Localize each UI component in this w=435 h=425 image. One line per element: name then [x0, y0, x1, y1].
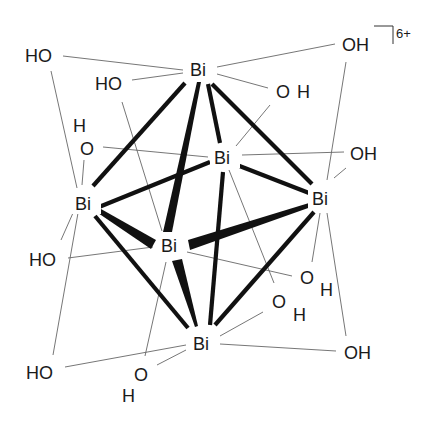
oh-top-inner-right-h: H — [297, 82, 310, 102]
charge-bracket: 6+ — [374, 26, 411, 44]
oh-lower-right-2-o: O — [272, 292, 286, 312]
oh-lower-right-1-h: H — [320, 280, 333, 300]
oh-top-inner-left: HO — [95, 74, 122, 94]
charge-label: 6+ — [396, 26, 411, 41]
oh-bottom-right: OH — [344, 343, 371, 363]
oh-bottom-center-h: H — [122, 386, 135, 406]
bi-front: Bi — [161, 236, 177, 256]
oh-back-left-h: H — [73, 116, 86, 136]
oh-bottom-left: HO — [26, 363, 53, 383]
oh-lower-right-2-h: H — [293, 305, 306, 325]
oh-top-right: OH — [342, 35, 369, 55]
oh-back-left-o: O — [80, 139, 94, 159]
oh-right: OH — [350, 144, 377, 164]
oh-top-left: HO — [25, 46, 52, 66]
oh-left-mid: HO — [29, 250, 56, 270]
oh-top-inner-right-o: O — [276, 82, 290, 102]
bismuth-cluster-diagram: Bi Bi Bi Bi Bi Bi HO HO OH O H H O OH HO… — [0, 0, 435, 425]
bi-bottom: Bi — [193, 334, 209, 354]
bi-back: Bi — [214, 148, 230, 168]
oh-bottom-center-o: O — [134, 365, 148, 385]
oh-lower-right-1-o: O — [300, 268, 314, 288]
bi-top: Bi — [190, 60, 206, 80]
bi-left: Bi — [75, 194, 91, 214]
bi-right: Bi — [312, 189, 328, 209]
